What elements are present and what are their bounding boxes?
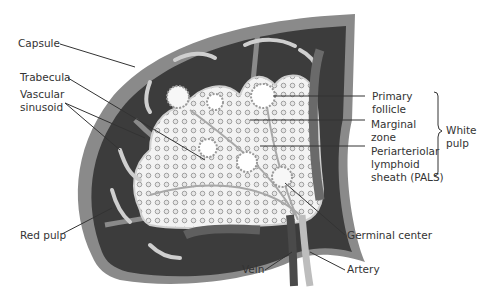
label-capsule: Capsule [18, 37, 60, 50]
label-white-pulp-line1: White [446, 124, 477, 137]
label-trabecula: Trabecula [20, 71, 71, 84]
label-marginal-zone-line1: Marginal [371, 118, 416, 131]
white-pulp-brace [434, 92, 442, 176]
spleen-diagram: Capsule Trabecula Vascular sinusoid Red … [0, 0, 491, 296]
vein-shape [290, 215, 294, 286]
label-pals-line3: sheath (PALS) [371, 171, 444, 184]
label-primary-follicle-line2: follicle [372, 103, 406, 116]
label-red-pulp: Red pulp [20, 229, 66, 242]
label-artery: Artery [347, 263, 380, 276]
label-vein: Vein [242, 263, 264, 276]
label-marginal-zone-line2: zone [371, 131, 396, 144]
label-pals-line2: lymphoid [371, 158, 420, 171]
label-white-pulp-line2: pulp [446, 137, 469, 150]
label-pals-line1: Periarteriolar [371, 145, 439, 158]
label-vascular-sinusoid-line2: sinusoid [20, 101, 63, 114]
label-primary-follicle-line1: Primary [372, 90, 413, 103]
label-vascular-sinusoid-line1: Vascular [20, 88, 64, 101]
label-germinal-center: Germinal center [347, 229, 432, 242]
